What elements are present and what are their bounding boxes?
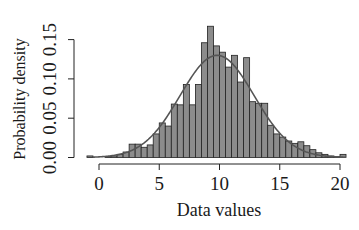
- y-tick-label: 0.00: [39, 141, 60, 174]
- histogram-bar: [238, 82, 244, 157]
- histogram-bar: [177, 105, 183, 158]
- histogram-bar: [159, 123, 165, 158]
- x-tick-label: 20: [331, 173, 350, 194]
- histogram-bar: [220, 52, 226, 157]
- y-tick-label: 0.15: [39, 23, 60, 56]
- histogram-bars: [87, 26, 346, 157]
- histogram-bar: [207, 26, 213, 157]
- histogram-bar: [87, 156, 93, 158]
- histogram-bar: [147, 145, 153, 158]
- x-axis: 05101520: [94, 164, 349, 194]
- histogram-bar: [195, 84, 201, 157]
- histogram-bar: [213, 46, 219, 158]
- histogram-bar: [171, 104, 177, 157]
- x-tick-label: 5: [155, 173, 165, 194]
- y-axis-title: Probability density: [11, 38, 29, 159]
- histogram-bar: [165, 126, 171, 157]
- histogram-bar: [141, 147, 147, 157]
- y-tick-label: 0.10: [39, 62, 60, 95]
- histogram-bar: [189, 105, 195, 158]
- histogram-bar: [226, 67, 232, 157]
- histogram-bar: [244, 58, 250, 158]
- x-tick-label: 15: [270, 173, 289, 194]
- histogram-bar: [280, 137, 286, 157]
- x-axis-title: Data values: [177, 200, 261, 220]
- histogram-bar: [183, 84, 189, 157]
- y-axis: 0.000.050.100.15: [39, 23, 74, 174]
- histogram-bar: [274, 134, 280, 158]
- histogram-bar: [250, 102, 256, 158]
- y-tick-label: 0.05: [39, 102, 60, 135]
- histogram-bar: [153, 134, 159, 158]
- histogram-bar: [256, 103, 262, 157]
- histogram-chart: 0.000.050.100.15 05101520 Data values Pr…: [0, 0, 359, 230]
- x-tick-label: 10: [210, 173, 229, 194]
- histogram-bar: [268, 125, 274, 157]
- x-tick-label: 0: [94, 173, 104, 194]
- histogram-bar: [232, 55, 238, 157]
